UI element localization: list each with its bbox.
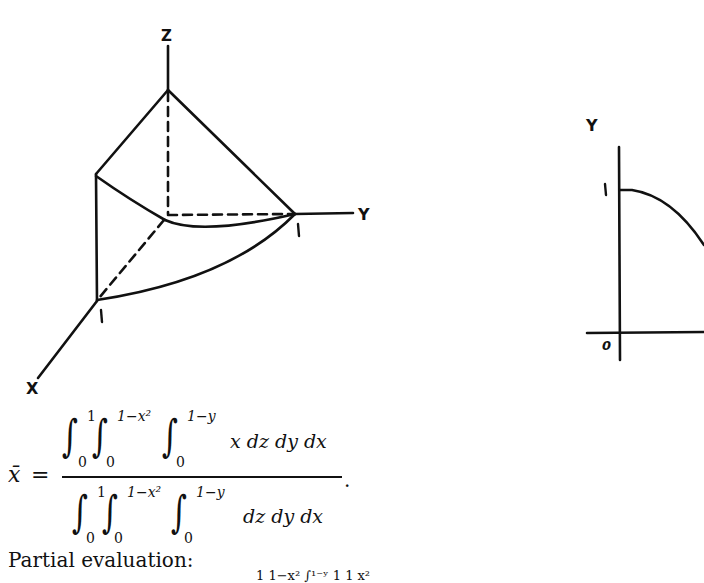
partial-evaluation-label: Partial evaluation:: [8, 548, 194, 572]
solid-region-3d-figure: [38, 46, 353, 378]
edge-vertical: [96, 174, 97, 301]
origin-label-2d: 0: [602, 338, 611, 353]
lower-limit: 0: [176, 454, 185, 470]
parabola-curve: [620, 190, 704, 245]
y-axis: [295, 213, 353, 214]
upper-limit: 1−x²: [117, 408, 151, 424]
integral-sign: ∫: [171, 490, 187, 534]
x-bar: x̄: [8, 462, 20, 487]
y-tick-one-mark: [298, 224, 299, 236]
region-2d-figure: [587, 147, 704, 360]
y-axis-label-2d: Y: [585, 116, 598, 135]
lower-limit: 0: [106, 454, 115, 470]
x-axis-label: X: [26, 379, 39, 398]
x-axis: [38, 301, 97, 378]
edge-apex-left: [96, 90, 168, 174]
lower-limit: 0: [86, 530, 95, 546]
curve-top-left: [96, 176, 165, 220]
integral-sign: ∫: [102, 490, 118, 534]
figures-canvas: Z Y X Y 0: [0, 0, 704, 400]
lower-limit: 0: [184, 530, 193, 546]
integral-sign: ∫: [162, 414, 178, 458]
cut-off-equation-line: 1 1−x² ∫¹⁻ʸ 1 1 x²: [256, 568, 370, 583]
integrand: x dz dy dx: [230, 430, 327, 452]
upper-limit: 1−x²: [127, 484, 161, 500]
fraction-bar: [62, 476, 342, 478]
x-axis-hidden: [99, 220, 164, 298]
x-tick-one-mark: [101, 310, 102, 322]
integrand: dz dy dx: [243, 505, 323, 527]
upper-limit: 1−y: [196, 484, 225, 500]
y-axis-2d: [619, 147, 620, 360]
equals-sign: =: [31, 462, 49, 487]
x-axis-2d: [587, 332, 704, 333]
integral-sign: ∫: [72, 490, 88, 534]
period: .: [344, 468, 350, 492]
y-axis-label: Y: [357, 205, 370, 224]
lower-limit: 0: [78, 454, 87, 470]
z-axis-label: Z: [161, 27, 172, 45]
y-tick-one-mark-2d: [605, 184, 606, 195]
integral-sign: ∫: [62, 414, 78, 458]
integral-sign: ∫: [92, 414, 108, 458]
upper-limit: 1−y: [187, 408, 216, 424]
lower-limit: 0: [114, 530, 123, 546]
edge-apex-y1: [168, 90, 295, 214]
y-axis-hidden: [168, 214, 292, 215]
